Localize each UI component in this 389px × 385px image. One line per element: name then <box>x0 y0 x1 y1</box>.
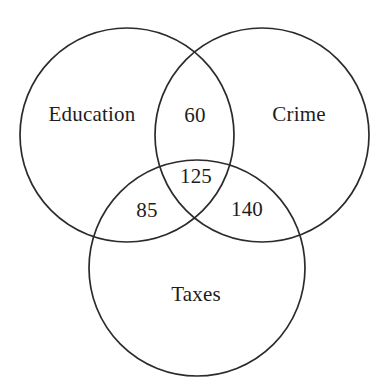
venn-diagram: Education Crime Taxes 60 125 85 140 <box>0 0 389 385</box>
venn-label-crime: Crime <box>272 104 326 125</box>
venn-label-education: Education <box>49 104 136 125</box>
venn-value-crime-taxes: 140 <box>231 199 263 220</box>
venn-value-education-taxes: 85 <box>136 200 157 221</box>
venn-value-education-crime: 60 <box>184 105 205 126</box>
venn-circles-group <box>0 0 389 385</box>
venn-circle-taxes <box>89 160 305 376</box>
venn-value-education-crime-taxes: 125 <box>180 166 212 187</box>
venn-circle-education <box>20 28 234 242</box>
venn-label-taxes: Taxes <box>171 284 221 305</box>
